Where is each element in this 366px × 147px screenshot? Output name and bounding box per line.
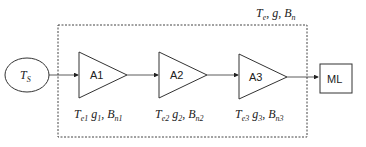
amplifier-a2: A2 <box>159 52 207 98</box>
a2-params-label: Te2 g2, Bn2 <box>155 107 204 123</box>
source-node: TS <box>5 58 49 92</box>
amplifier-a1: A1 <box>79 52 127 98</box>
matched-load-box: ML <box>320 64 352 93</box>
svg-text:ML: ML <box>327 73 342 85</box>
a3-params-label: Te3 g3, Bn3 <box>235 107 284 123</box>
system-label: Te, g, Bn <box>256 6 296 22</box>
amplifier-chain-diagram: Te, g, Bn TS A1 A2 A3 ML Te1 g1, Bn1 Te2… <box>0 0 366 147</box>
a1-params-label: Te1 g1, Bn1 <box>74 107 123 123</box>
svg-text:A3: A3 <box>249 71 262 83</box>
amplifier-a3: A3 <box>239 54 287 99</box>
svg-text:A2: A2 <box>170 69 183 81</box>
svg-text:A1: A1 <box>90 69 103 81</box>
